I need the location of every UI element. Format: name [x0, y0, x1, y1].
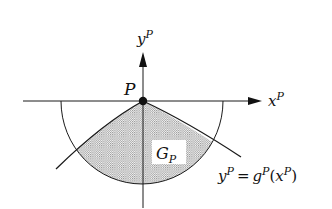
point-p-label: P [123, 79, 136, 99]
y-axis-label: yP [136, 28, 153, 48]
region-gp-shading [60, 101, 240, 209]
x-axis-arrow-icon [248, 97, 262, 105]
curve-equation-label: yP=gP(xP) [217, 165, 297, 185]
diagram-canvas: yP xP P GP yP=gP(xP) [0, 0, 332, 209]
y-axis-arrow-icon [139, 52, 147, 67]
point-p-marker [139, 97, 147, 105]
x-axis-label: xP [268, 90, 284, 110]
